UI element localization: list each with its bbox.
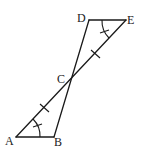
angle-arc-e — [102, 20, 109, 38]
label-e: E — [127, 13, 134, 27]
angle-arc-a — [33, 119, 40, 137]
label-c: C — [57, 72, 65, 86]
tick-mark-ce — [91, 50, 100, 58]
label-b: B — [54, 135, 62, 149]
label-d: D — [77, 11, 86, 25]
geometry-diagram: A B C D E — [0, 0, 148, 156]
label-a: A — [5, 134, 14, 148]
